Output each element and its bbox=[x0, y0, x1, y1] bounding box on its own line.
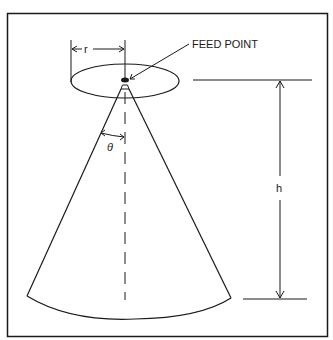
feed-point-label: FEED POINT bbox=[192, 38, 258, 50]
cone-right-side bbox=[129, 89, 231, 298]
feed-point-leader bbox=[130, 44, 189, 79]
feed-gap bbox=[121, 85, 129, 89]
conical-antenna-diagram: r FEED POINT θ h bbox=[0, 0, 333, 340]
theta-label: θ bbox=[107, 141, 113, 153]
cone-base-arc bbox=[27, 296, 231, 319]
radius-label: r bbox=[84, 43, 88, 55]
height-label: h bbox=[276, 182, 282, 194]
cone-left-side bbox=[27, 89, 121, 296]
feed-point-icon bbox=[121, 78, 129, 83]
